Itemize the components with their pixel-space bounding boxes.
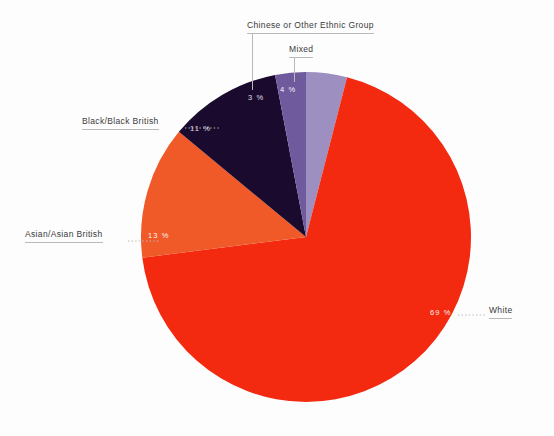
- slice-value-chinese: 3 %: [248, 93, 264, 102]
- pie-chart-canvas: Chinese or Other Ethnic Group Mixed Blac…: [0, 0, 554, 436]
- slice-label-chinese: Chinese or Other Ethnic Group: [247, 20, 374, 34]
- slice-value-black: 11 %: [190, 124, 211, 133]
- pie-chart-svg: [0, 0, 554, 436]
- slice-label-white: White: [489, 305, 512, 319]
- slice-label-mixed: Mixed: [289, 44, 313, 58]
- slice-label-black: Black/Black British: [82, 116, 159, 130]
- slice-value-white: 69 %: [430, 308, 452, 317]
- slice-value-mixed: 4 %: [280, 85, 296, 94]
- pie-slices: [141, 72, 471, 402]
- slice-label-asian: Asian/Asian British: [25, 229, 103, 243]
- slice-value-asian: 13 %: [148, 231, 170, 240]
